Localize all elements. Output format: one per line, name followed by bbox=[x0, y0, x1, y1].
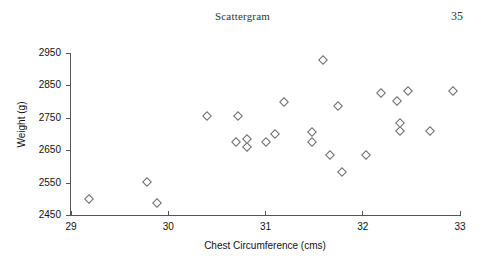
data-point bbox=[448, 86, 458, 96]
y-tick-label: 2950 bbox=[39, 47, 61, 58]
data-point bbox=[307, 127, 317, 137]
data-point bbox=[270, 129, 280, 139]
data-point bbox=[325, 150, 335, 160]
scatter-chart: 245025502650275028502950 2930313233 Weig… bbox=[0, 0, 485, 272]
scattergram-page: Scattergram 35 245025502650275028502950 … bbox=[0, 0, 485, 272]
x-tick: 30 bbox=[168, 211, 169, 216]
data-point bbox=[243, 142, 253, 152]
y-tick bbox=[66, 85, 71, 86]
x-tick-label: 31 bbox=[260, 221, 271, 232]
x-tick: 33 bbox=[460, 211, 461, 216]
data-point bbox=[279, 97, 289, 107]
data-point bbox=[307, 137, 317, 147]
data-point bbox=[243, 134, 253, 144]
data-point bbox=[202, 111, 212, 121]
y-tick-label: 2650 bbox=[39, 144, 61, 155]
data-point bbox=[231, 137, 241, 147]
data-point bbox=[337, 167, 347, 177]
x-axis-title: Chest Circumference (cms) bbox=[70, 240, 460, 251]
x-tick-label: 33 bbox=[454, 221, 465, 232]
y-tick-label: 2450 bbox=[39, 209, 61, 220]
x-tick-label: 32 bbox=[357, 221, 368, 232]
data-point bbox=[142, 177, 152, 187]
data-point bbox=[333, 101, 343, 111]
y-axis-title: Weight (g) bbox=[16, 75, 27, 175]
data-point bbox=[318, 55, 328, 65]
data-point bbox=[152, 198, 162, 208]
y-tick bbox=[66, 118, 71, 119]
data-point bbox=[425, 126, 435, 136]
y-tick-label: 2750 bbox=[39, 112, 61, 123]
data-point bbox=[376, 88, 386, 98]
x-tick-label: 30 bbox=[163, 221, 174, 232]
data-point bbox=[233, 111, 243, 121]
data-point bbox=[395, 126, 405, 136]
data-point bbox=[261, 137, 271, 147]
y-tick-label: 2850 bbox=[39, 79, 61, 90]
data-point bbox=[403, 86, 413, 96]
x-tick: 31 bbox=[265, 211, 266, 216]
x-tick-label: 29 bbox=[65, 221, 76, 232]
data-point bbox=[395, 118, 405, 128]
x-tick: 32 bbox=[362, 211, 363, 216]
y-tick bbox=[66, 183, 71, 184]
data-point bbox=[361, 150, 371, 160]
data-point bbox=[84, 194, 94, 204]
y-tick bbox=[66, 150, 71, 151]
y-tick bbox=[66, 53, 71, 54]
data-point bbox=[392, 96, 402, 106]
y-axis-line bbox=[70, 53, 71, 216]
x-tick: 29 bbox=[71, 211, 72, 216]
y-tick-label: 2550 bbox=[39, 177, 61, 188]
